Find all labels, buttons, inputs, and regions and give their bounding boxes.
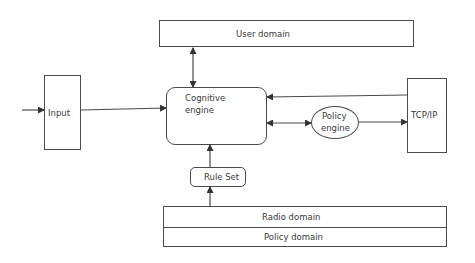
- cognitive-engine-label-line1: Cognitive: [185, 93, 225, 103]
- radio-domain-label: Radio domain: [262, 212, 320, 222]
- policy-engine-label-line1: Policy: [322, 111, 346, 121]
- tcp-ip-label: TCP/IP: [411, 110, 437, 120]
- input-box: Input: [44, 75, 81, 150]
- policy-engine-label-line2: engine: [321, 123, 350, 133]
- user-domain-box: User domain: [159, 20, 414, 47]
- user-domain-label: User domain: [236, 29, 290, 39]
- policy-domain-label: Policy domain: [264, 232, 323, 242]
- input-label: Input: [48, 108, 70, 118]
- radio-domain-box: Radio domain: [163, 206, 447, 228]
- cognitive-engine-box: Cognitive engine: [166, 87, 267, 145]
- cognitive-engine-label-line2: engine: [185, 105, 214, 115]
- tcp-ip-box: TCP/IP: [407, 78, 447, 153]
- arrow-input-to-cognitive: [81, 108, 166, 110]
- arrow-tcpip-to-cognitive: [267, 95, 407, 97]
- rule-set-box: Rule Set: [190, 167, 246, 187]
- policy-engine-ellipse: Policy engine: [311, 106, 359, 139]
- policy-domain-box: Policy domain: [163, 227, 447, 247]
- rule-set-label: Rule Set: [204, 172, 239, 182]
